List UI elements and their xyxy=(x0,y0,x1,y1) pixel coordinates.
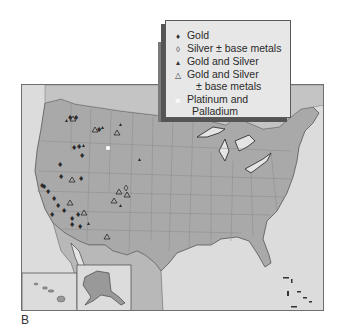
caribbean-islands xyxy=(283,277,312,308)
legend: ♦ Gold ◊ Silver ± base metals ▴ Gold and… xyxy=(165,20,291,118)
platinum-palladium-deposit xyxy=(106,146,110,150)
legend-item-platinum-line2: Palladium xyxy=(192,105,238,117)
svg-text:♦: ♦ xyxy=(61,207,67,215)
legend-item-gold-silver: ▴ Gold and Silver xyxy=(172,55,259,69)
legend-item-silver: ◊ Silver ± base metals xyxy=(172,42,281,56)
svg-text:♦: ♦ xyxy=(78,175,84,183)
svg-text:♦: ♦ xyxy=(76,143,82,151)
svg-text:♦: ♦ xyxy=(75,211,81,219)
svg-text:♦: ♦ xyxy=(57,161,63,169)
svg-text:♦: ♦ xyxy=(79,152,85,160)
hawaii-inset xyxy=(22,273,77,311)
svg-text:♦: ♦ xyxy=(69,221,75,229)
alaska-inset xyxy=(77,265,131,311)
panel-label: B xyxy=(21,313,29,327)
svg-text:♦: ♦ xyxy=(49,211,55,219)
legend-item-gold-silver-base-line2: ± base metals xyxy=(196,80,261,92)
svg-text:♦: ♦ xyxy=(58,173,64,181)
legend-item-gold: ♦ Gold xyxy=(172,29,209,43)
white-square-icon: ■ xyxy=(172,95,184,107)
svg-text:♦: ♦ xyxy=(77,223,83,231)
open-triangle-icon: △ xyxy=(172,70,184,82)
